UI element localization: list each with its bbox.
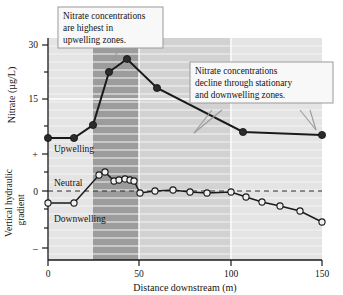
gradient-point xyxy=(319,219,325,225)
y-axis-ticks xyxy=(42,45,48,248)
callout-decline-line-3: and downwelling zones. xyxy=(195,90,285,100)
x-tick-label-0: 0 xyxy=(46,269,51,279)
y-tick-label-minus: – xyxy=(32,243,39,254)
nitrate-hydraulic-gradient-figure: Upwelling Neutral Downwelling 30 15 + 0 … xyxy=(0,0,343,295)
gradient-point xyxy=(243,194,249,200)
gradient-point xyxy=(297,208,303,214)
callout-decline-line-2: decline through stationary xyxy=(195,78,292,88)
nitrate-point xyxy=(153,84,160,91)
gradient-point xyxy=(45,200,51,206)
nitrate-point xyxy=(239,128,246,135)
gradient-point xyxy=(137,190,143,196)
callout-upwelling-line-2: are highest in xyxy=(63,23,113,33)
y-tick-label-plus: + xyxy=(32,149,38,160)
neutral-label: Neutral xyxy=(54,178,83,188)
callout-upwelling-line-1: Nitrate concentrations xyxy=(63,11,146,21)
y-tick-label-15: 15 xyxy=(29,94,39,104)
downwelling-label: Downwelling xyxy=(54,214,106,224)
x-axis-ticks xyxy=(48,260,322,266)
x-tick-label-50: 50 xyxy=(134,269,144,279)
gradient-point xyxy=(102,169,108,175)
gradient-point xyxy=(116,177,122,183)
x-tick-label-150: 150 xyxy=(315,269,330,279)
y-axis-title-gradient-line1: Vertical hydraulic xyxy=(4,169,14,237)
y-tick-label-zero: 0 xyxy=(33,187,38,197)
upwelling-zone-shading xyxy=(93,38,139,260)
x-axis-title: Distance downstream (m) xyxy=(133,282,236,294)
upwelling-label: Upwelling xyxy=(54,144,94,154)
gradient-point xyxy=(204,190,210,196)
callout-upwelling: Nitrate concentrations are highest in up… xyxy=(58,7,163,48)
nitrate-point xyxy=(105,68,112,75)
gradient-point xyxy=(277,203,283,209)
nitrate-point xyxy=(318,131,325,138)
callout-upwelling-line-3: upwelling zones. xyxy=(63,35,126,45)
nitrate-point xyxy=(44,134,51,141)
gradient-point xyxy=(187,189,193,195)
nitrate-point xyxy=(89,121,96,128)
callout-decline: Nitrate concentrations decline through s… xyxy=(190,62,333,103)
gradient-point xyxy=(131,178,137,184)
gradient-point xyxy=(152,188,158,194)
callout-decline-line-1: Nitrate concentrations xyxy=(195,66,278,76)
x-tick-label-100: 100 xyxy=(224,269,239,279)
gradient-point xyxy=(170,187,176,193)
gradient-point xyxy=(71,200,77,206)
y-axis-title-nitrate: Nitrate (µg/L) xyxy=(6,67,18,124)
nitrate-point xyxy=(70,134,77,141)
y-tick-label-30: 30 xyxy=(29,40,39,50)
gradient-point xyxy=(259,199,265,205)
gradient-point xyxy=(228,189,234,195)
gradient-point xyxy=(96,172,102,178)
nitrate-point xyxy=(123,55,130,62)
y-axis-title-gradient-line2: gradient xyxy=(16,194,26,225)
